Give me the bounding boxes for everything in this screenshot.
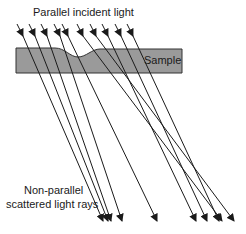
scattered-label-line1: Non-parallel bbox=[24, 184, 83, 196]
incident-ray-arrow bbox=[54, 24, 60, 36]
incident-ray-arrow bbox=[62, 24, 68, 36]
sample-label: Sample bbox=[144, 54, 181, 66]
incident-ray-arrow bbox=[17, 24, 23, 36]
incident-ray-arrow bbox=[115, 24, 121, 36]
incident-light-label: Parallel incident light bbox=[33, 6, 134, 18]
incident-rays bbox=[17, 24, 133, 36]
incident-ray-arrow bbox=[41, 24, 47, 36]
light-scattering-diagram: Parallel incident light Sample Non-paral… bbox=[0, 0, 246, 234]
incident-ray-arrow bbox=[77, 24, 83, 36]
incident-ray-arrow bbox=[102, 24, 108, 36]
incident-ray-arrow bbox=[90, 24, 96, 36]
incident-ray-arrow bbox=[127, 24, 133, 36]
scattered-label-line2: scattered light rays bbox=[6, 198, 99, 210]
incident-ray-arrow bbox=[29, 24, 35, 36]
